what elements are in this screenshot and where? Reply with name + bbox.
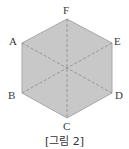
vertex-label-b: B — [8, 89, 15, 101]
vertex-label-c: C — [63, 120, 70, 132]
vertex-label-f: F — [63, 4, 69, 16]
hexagon-shape — [22, 19, 112, 118]
figure-caption: [그림 2] — [0, 132, 129, 148]
vertex-label-e: E — [114, 35, 121, 47]
hexagon-figure: F E D C B A — [0, 0, 129, 149]
vertex-label-a: A — [9, 35, 17, 47]
vertex-label-d: D — [115, 89, 123, 101]
